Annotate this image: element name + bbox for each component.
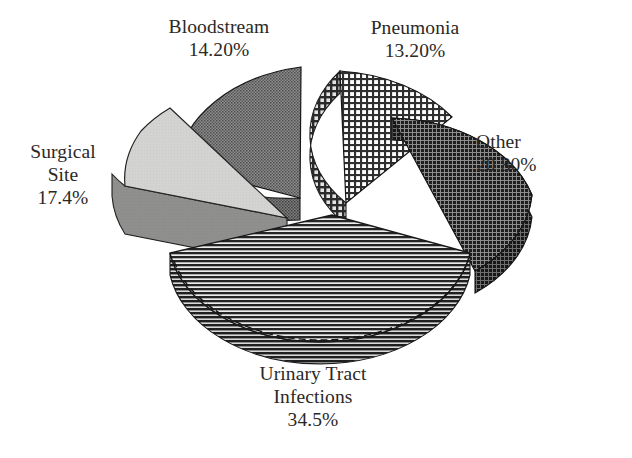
pie-label-urinary-tract-infections-value: 34.5% xyxy=(198,409,428,432)
pie-label-other-value: 20.80% xyxy=(476,154,626,177)
pie-label-urinary-tract-infections-name2: Infections xyxy=(198,386,428,409)
pie-chart: Bloodstream 14.20% Pneumonia 13.20% Othe… xyxy=(0,0,632,458)
pie-label-other-name: Other xyxy=(476,131,626,154)
pie-label-urinary-tract-infections-name: Urinary Tract xyxy=(198,363,428,386)
pie-label-surgical-site-name: Surgical xyxy=(2,141,124,164)
pie-label-pneumonia-name: Pneumonia xyxy=(300,17,530,40)
pie-label-other: Other 20.80% xyxy=(476,131,626,177)
pie-label-surgical-site-name2: Site xyxy=(2,164,124,187)
pie-label-urinary-tract-infections: Urinary Tract Infections 34.5% xyxy=(198,363,428,431)
pie-label-surgical-site: Surgical Site 17.4% xyxy=(2,141,124,209)
pie-label-pneumonia: Pneumonia 13.20% xyxy=(300,17,530,63)
pie-label-surgical-site-value: 17.4% xyxy=(2,187,124,210)
pie-label-pneumonia-value: 13.20% xyxy=(300,40,530,63)
